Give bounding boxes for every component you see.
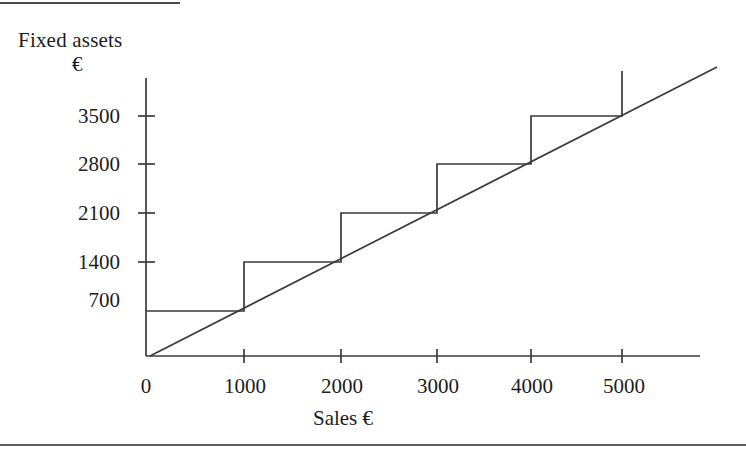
textbook-page: Fixed assets € Sales € 3500 2800 2100 14… — [0, 0, 746, 457]
step-function-series — [146, 71, 622, 311]
linear-sales-line-series — [150, 67, 717, 356]
step-chart-plot — [0, 0, 746, 457]
